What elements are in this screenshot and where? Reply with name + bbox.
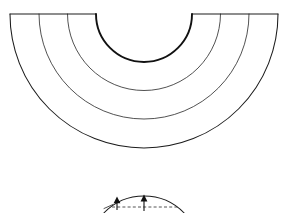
ring-arcs-group	[39, 14, 249, 119]
outer-boundary-arc	[10, 14, 278, 148]
rise-arrow-left-head	[114, 197, 121, 204]
ring-arc-r105	[39, 14, 249, 119]
diagram-canvas	[0, 0, 289, 213]
figure-root: Half-annulus radial grid diagram half-an…	[0, 0, 289, 213]
ring-arc-r76	[68, 14, 221, 91]
main-half-annulus-group	[10, 0, 278, 148]
rise-arrow-center	[141, 195, 148, 212]
inner-bold-arc	[96, 14, 192, 62]
rise-arrow-left	[114, 197, 121, 211]
lower-detail-group	[104, 195, 184, 214]
